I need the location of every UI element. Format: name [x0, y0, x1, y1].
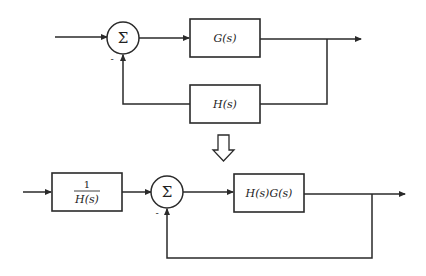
equivalent-unity-feedback-system: 1 H(s) Σ - H(s)G(s): [23, 173, 405, 258]
prefilter-denominator: H(s): [74, 193, 99, 206]
prefilter-numerator: 1: [84, 179, 90, 190]
feedback-return-line: [123, 55, 190, 104]
block-diagram: Σ - G(s) H(s) 1 H(s): [0, 0, 426, 276]
down-arrow-icon: [213, 135, 234, 161]
forward-block-label: G(s): [213, 32, 236, 45]
feedback-block-h: H(s): [190, 85, 260, 123]
summing-junction-bottom: Σ: [151, 176, 183, 208]
original-system: Σ - G(s) H(s): [55, 19, 361, 123]
sigma-symbol: Σ: [118, 29, 129, 47]
sigma-symbol-bottom: Σ: [162, 183, 173, 201]
prefilter-block: 1 H(s): [52, 173, 122, 211]
summing-junction-top: Σ: [107, 22, 139, 54]
feedback-takeoff-line: [260, 39, 327, 104]
forward-block-hg-label: H(s)G(s): [245, 187, 293, 200]
feedback-sign-bottom: -: [155, 208, 158, 218]
forward-block-hg: H(s)G(s): [234, 174, 304, 212]
feedback-sign-top: -: [110, 54, 113, 64]
feedback-block-label: H(s): [212, 98, 237, 111]
forward-block-g: G(s): [190, 19, 260, 57]
